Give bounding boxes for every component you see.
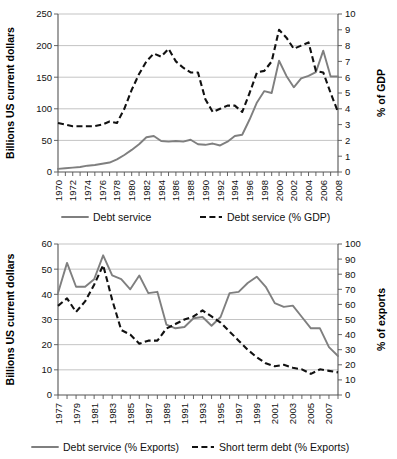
series-line-2 — [58, 30, 338, 126]
y-ticklabel-right: 5 — [345, 87, 350, 98]
y-axis-title-left: Billions US current dollars — [4, 27, 16, 159]
y-ticklabel-left: 100 — [36, 103, 52, 114]
y-ticklabel-right: 0 — [345, 389, 350, 400]
figure-debt-service-gdp: 0501001502002500123456789101970197219741… — [0, 0, 397, 230]
x-ticklabel: 2006 — [318, 180, 329, 201]
x-ticklabel: 1990 — [200, 180, 211, 201]
y-ticklabel-right: 30 — [345, 344, 356, 355]
y-ticklabel-left: 250 — [36, 8, 52, 19]
x-ticklabel: 1976 — [97, 180, 108, 201]
x-ticklabel: 2007 — [323, 403, 334, 424]
x-ticklabel: 1970 — [53, 180, 64, 201]
y-ticklabel-right: 90 — [345, 254, 356, 265]
y-ticklabel-left: 50 — [41, 264, 52, 275]
y-ticklabel-left: 200 — [36, 40, 52, 51]
y-ticklabel-left: 30 — [41, 314, 52, 325]
x-ticklabel: 2003 — [287, 403, 298, 424]
legend-label-1: Debt service — [93, 211, 152, 223]
x-ticklabel: 2004 — [303, 180, 314, 201]
y-ticklabel-left: 40 — [41, 289, 52, 300]
x-ticklabel: 1989 — [161, 403, 172, 424]
chart-debt-service-exports: 0102030405060010203040506070809010019771… — [0, 230, 397, 459]
x-ticklabel: 1981 — [89, 403, 100, 424]
x-ticklabel: 2000 — [274, 180, 285, 201]
y-ticklabel-left: 150 — [36, 72, 52, 83]
series-line-1 — [58, 51, 338, 169]
y-ticklabel-right: 40 — [345, 329, 356, 340]
x-ticklabel: 1991 — [179, 403, 190, 424]
x-ticklabel: 1993 — [197, 403, 208, 424]
x-ticklabel: 1997 — [233, 403, 244, 424]
x-ticklabel: 1974 — [82, 180, 93, 201]
y-ticklabel-left: 50 — [41, 135, 52, 146]
y-axis-title-left: Billions US current dollars — [4, 253, 16, 385]
x-ticklabel: 1996 — [244, 180, 255, 201]
x-ticklabel: 1987 — [143, 403, 154, 424]
y-ticklabel-right: 4 — [345, 103, 350, 114]
y-ticklabel-right: 6 — [345, 72, 350, 83]
y-ticklabel-right: 0 — [345, 166, 350, 177]
chart-page: 0501001502002500123456789101970197219741… — [0, 0, 397, 459]
x-ticklabel: 1999 — [251, 403, 262, 424]
x-ticklabel: 1994 — [229, 180, 240, 201]
y-ticklabel-left: 20 — [41, 339, 52, 350]
x-ticklabel: 1985 — [125, 403, 136, 424]
x-ticklabel: 1986 — [170, 180, 181, 201]
x-ticklabel: 1972 — [67, 180, 78, 201]
x-ticklabel: 1984 — [156, 180, 167, 201]
x-ticklabel: 1988 — [185, 180, 196, 201]
figure-debt-service-exports: 0102030405060010203040506070809010019771… — [0, 230, 397, 459]
y-ticklabel-right: 60 — [345, 299, 356, 310]
y-ticklabel-right: 70 — [345, 284, 356, 295]
y-ticklabel-right: 100 — [345, 238, 361, 249]
y-ticklabel-left: 0 — [47, 166, 52, 177]
x-ticklabel: 1979 — [71, 403, 82, 424]
y-ticklabel-right: 10 — [345, 374, 356, 385]
y-ticklabel-right: 9 — [345, 24, 350, 35]
y-ticklabel-right: 7 — [345, 56, 350, 67]
x-ticklabel: 1982 — [141, 180, 152, 201]
x-ticklabel: 2002 — [288, 180, 299, 201]
y-ticklabel-right: 20 — [345, 359, 356, 370]
x-ticklabel: 2008 — [333, 180, 344, 201]
x-ticklabel: 2001 — [269, 403, 280, 424]
y-ticklabel-left: 60 — [41, 238, 52, 249]
x-ticklabel: 1983 — [107, 403, 118, 424]
chart-debt-service-gdp: 0501001502002500123456789101970197219741… — [0, 0, 397, 230]
y-ticklabel-left: 0 — [47, 389, 52, 400]
x-ticklabel: 1998 — [259, 180, 270, 201]
y-ticklabel-right: 10 — [345, 8, 356, 19]
y-axis-title-right: % of GDP — [375, 69, 387, 117]
y-ticklabel-right: 2 — [345, 135, 350, 146]
y-axis-title-right: % of exports — [375, 288, 387, 351]
x-ticklabel: 1977 — [53, 403, 64, 424]
x-ticklabel: 1995 — [215, 403, 226, 424]
x-ticklabel: 1992 — [215, 180, 226, 201]
x-ticklabel: 2005 — [305, 403, 316, 424]
y-ticklabel-right: 50 — [345, 314, 356, 325]
x-ticklabel: 1980 — [126, 180, 137, 201]
y-ticklabel-right: 3 — [345, 119, 350, 130]
x-ticklabel: 1978 — [111, 180, 122, 201]
y-ticklabel-right: 1 — [345, 151, 350, 162]
y-ticklabel-right: 80 — [345, 269, 356, 280]
legend-label-2: Debt service (% GDP) — [227, 211, 330, 223]
legend-label-1: Debt service (% Exports) — [63, 441, 179, 453]
y-ticklabel-left: 10 — [41, 364, 52, 375]
y-ticklabel-right: 8 — [345, 40, 350, 51]
legend-label-2: Short term debt (% Exports) — [219, 441, 349, 453]
